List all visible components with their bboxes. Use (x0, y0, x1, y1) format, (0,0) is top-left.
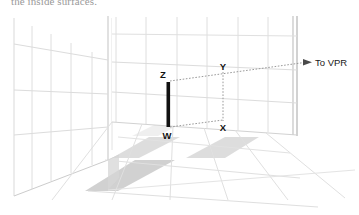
left-wall (14, 16, 119, 196)
back-wall (112, 16, 297, 136)
label-Z: Z (160, 69, 166, 80)
left-wall-plane (14, 18, 108, 196)
label-W: W (163, 130, 172, 141)
label-to-vpr: To VPR (315, 57, 347, 68)
perspective-figure: the inside surfaces. (0, 0, 359, 215)
vertical-post-ZW (167, 82, 171, 127)
floor-recede-line (266, 133, 345, 198)
vpr-arrowhead-icon (303, 59, 312, 66)
scene-svg: Z W Y X To VPR (0, 0, 359, 215)
label-Y: Y (220, 61, 227, 72)
label-X: X (220, 122, 227, 133)
floor-recede-line (235, 130, 288, 200)
